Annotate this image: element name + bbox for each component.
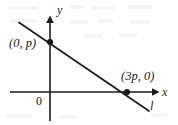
label-axis-x: x (162, 86, 167, 98)
label-line-name: l (150, 100, 153, 113)
x-axis-arrowhead (152, 88, 160, 96)
label-y-intercept: (0, p) (9, 37, 36, 50)
y-axis (46, 16, 54, 122)
coordinate-plane-figure: (0, p) (3p, 0) y x 0 l (0, 0, 178, 125)
label-axis-y: y (57, 4, 62, 16)
y-axis-arrowhead (46, 16, 54, 24)
label-x-intercept: (3p, 0) (121, 70, 154, 83)
label-origin: 0 (36, 95, 42, 107)
scan-artifacts (6, 5, 168, 119)
x-axis (10, 88, 160, 96)
point-y-intercept (47, 39, 53, 45)
point-x-intercept (124, 89, 130, 95)
